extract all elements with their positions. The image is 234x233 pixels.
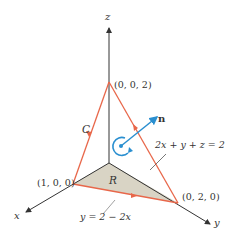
x-intercept-label: (1, 0, 0) bbox=[37, 177, 75, 188]
y-intercept-label: (0, 2, 0) bbox=[182, 191, 220, 202]
z-intercept-label: (0, 0, 2) bbox=[114, 79, 152, 90]
line-equation-label: y = 2 − 2x bbox=[79, 211, 131, 222]
normal-label: n bbox=[158, 113, 166, 124]
stokes-theorem-diagram: z x y (0, 0, 2) (1, 0, 0) (0, 2, 0) C R … bbox=[0, 0, 234, 233]
diagram-canvas: z x y (0, 0, 2) (1, 0, 0) (0, 2, 0) C R … bbox=[0, 0, 234, 233]
plane-equation-label: 2x + y + z = 2 bbox=[154, 139, 225, 150]
region-label: R bbox=[108, 174, 117, 186]
curve-label: C bbox=[82, 123, 90, 135]
circulation-arrowhead-icon bbox=[128, 147, 133, 153]
z-axis-label: z bbox=[104, 11, 111, 22]
x-axis-label: x bbox=[14, 210, 20, 221]
normal-vector bbox=[121, 117, 157, 146]
y-axis-label: y bbox=[213, 217, 220, 228]
region-r bbox=[73, 163, 178, 203]
curve-direction-arrow-right bbox=[133, 124, 138, 131]
